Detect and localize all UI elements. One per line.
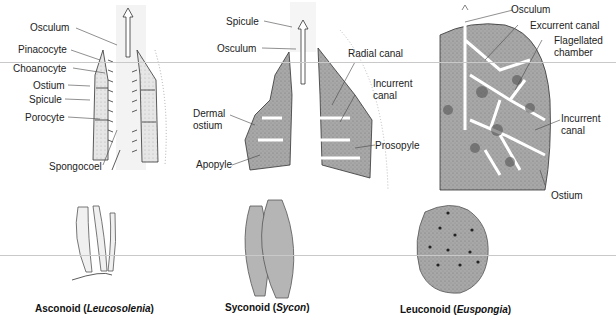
label-excurrent-canal: Excurrent canal <box>530 20 599 31</box>
label-prosopyle: Prosopyle <box>375 140 419 151</box>
label-spongocoel: Spongocoel <box>49 161 102 172</box>
label-incurrent: Incurrent <box>561 113 600 124</box>
label-osculum: Osculum <box>511 4 550 15</box>
label-apopyle: Apopyle <box>196 159 232 170</box>
caption-type: Leuconoid <box>400 304 451 315</box>
label-osculum: Osculum <box>217 43 256 54</box>
label-porocyte: Porocyte <box>25 112 64 123</box>
label-ostium: Ostium <box>551 190 583 201</box>
label-spicule: Spicule <box>226 16 259 27</box>
label-canal: canal <box>561 125 585 136</box>
asconoid-section <box>93 5 166 170</box>
caption-type: Syconoid <box>225 302 270 313</box>
label-incurrent: Incurrent <box>373 78 412 89</box>
leuconoid-section <box>440 5 550 190</box>
scan-line <box>0 62 616 63</box>
scan-line <box>0 255 616 256</box>
caption-genus: Sycon <box>276 302 306 313</box>
label-flagellated: Flagellated <box>554 35 603 46</box>
label-chamber: chamber <box>554 47 593 58</box>
label-ostium: Ostium <box>33 80 65 91</box>
label-choanocyte: Choanocyte <box>13 63 66 74</box>
leuconoid-body <box>417 205 488 293</box>
label-spicule: Spicule <box>29 94 62 105</box>
caption-syconoid: Syconoid (Sycon) <box>225 302 309 313</box>
asconoid-body <box>72 206 116 280</box>
label-ostium: ostium <box>193 120 222 131</box>
syconoid-body <box>245 200 294 298</box>
caption-genus: Euspongia <box>457 304 508 315</box>
caption-leuconoid: Leuconoid (Euspongia) <box>400 304 511 315</box>
caption-asconoid: Asconoid (Leucosolenia) <box>35 303 154 314</box>
label-osculum: Osculum <box>30 22 69 33</box>
label-canal: canal <box>373 90 397 101</box>
caption-genus: Leucosolenia <box>87 303 151 314</box>
caption-type: Asconoid <box>35 303 81 314</box>
label-dermal: Dermal <box>193 108 225 119</box>
label-radial-canal: Radial canal <box>348 48 403 59</box>
label-pinacocyte: Pinacocyte <box>18 44 67 55</box>
syconoid-section <box>245 2 388 190</box>
